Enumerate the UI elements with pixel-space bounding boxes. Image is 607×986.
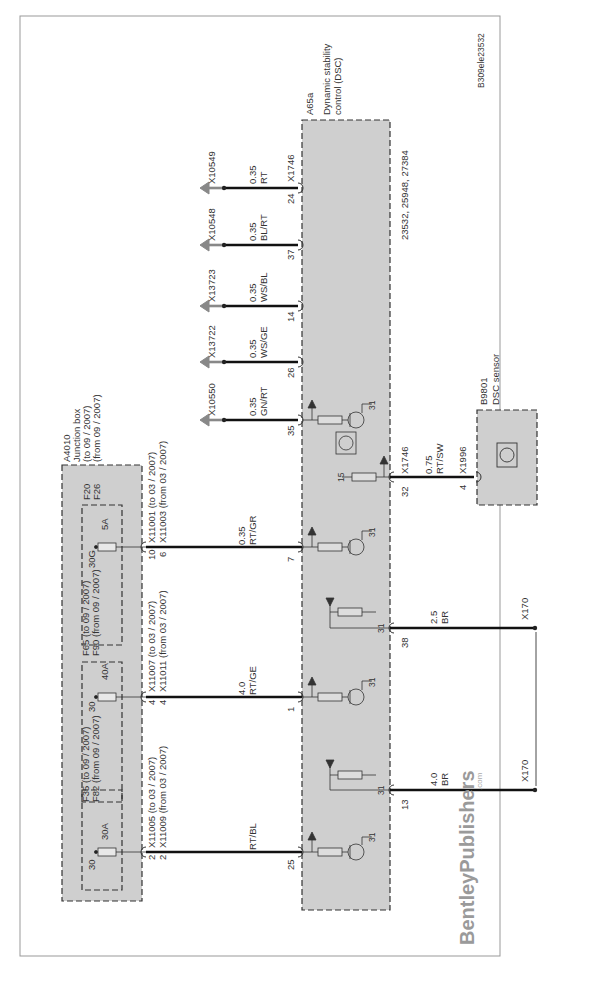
- fuse3-terminal: 30G: [86, 550, 97, 568]
- fuse2-conn1: X11007 (to 03 / 2007): [146, 601, 157, 692]
- out-gauge-ws-bl: 0.35: [247, 284, 258, 303]
- wire-color-rt-gr: RT/GR: [247, 515, 258, 545]
- wire-gauge-br-13: 4.0: [428, 773, 439, 786]
- out-gauge-gn-rt: 0.35: [247, 398, 258, 417]
- ground-31: 31: [376, 623, 386, 633]
- fuse1-pin1: 2: [146, 855, 157, 860]
- fuse3-rating: 5A: [99, 518, 110, 530]
- fuse1-conn2: X11009 (from 03 / 2007): [157, 746, 168, 848]
- pin-7: 7: [285, 557, 296, 562]
- terminal-15: 15: [336, 472, 346, 482]
- ground-31: 31: [367, 527, 377, 537]
- out-x10550: X10550: [206, 383, 217, 416]
- sensor-connector-x1996: X1996: [457, 447, 468, 474]
- fuse2-terminal: 30: [86, 701, 97, 712]
- dsc-connector-x1746: X1746: [285, 155, 296, 182]
- fuse3-label2: F26: [91, 484, 102, 500]
- ground-x170-a: X170: [519, 760, 530, 782]
- wire-label-rt-bl: RT/BL: [247, 823, 258, 850]
- out-x13722: X13722: [206, 325, 217, 358]
- dsc-name-line2: control (DSC): [332, 57, 343, 115]
- brand-suffix: .com: [475, 772, 484, 790]
- diagram-id: B309ele23532: [476, 33, 486, 88]
- pin-35: 35: [285, 425, 296, 436]
- fuse2-rating: 40A: [99, 662, 110, 680]
- wire-color-br-13: BR: [439, 773, 450, 786]
- pin-13: 13: [399, 799, 410, 810]
- wire-gauge-br-38: 2.5: [428, 611, 439, 624]
- fuse2-conn2: X11011 (from 03 / 2007): [157, 590, 168, 692]
- fuse3-pin1: 10: [146, 549, 157, 560]
- wire-color-rt-ge: RT/GE: [247, 666, 258, 695]
- dsc-name-line1: Dynamic stability: [321, 43, 332, 115]
- sensor-pin-4: 4: [457, 485, 468, 490]
- dsc-refs: 23532, 25948, 27384: [399, 150, 410, 240]
- fuse1-terminal: 30: [86, 859, 97, 870]
- pin-14: 14: [285, 311, 296, 322]
- pin-1: 1: [285, 707, 296, 712]
- out-color-gn-rt: GN/RT: [258, 386, 269, 416]
- out-color-rt: RT: [258, 171, 269, 184]
- pin-25: 25: [285, 859, 296, 870]
- out-gauge-rt: 0.35: [247, 166, 258, 185]
- wire-gauge-rt-ge: 4.0: [236, 682, 247, 695]
- pin-38: 38: [399, 637, 410, 648]
- dsc-sensor-b9801: [477, 410, 537, 505]
- junction-box-variant2: (from 09 / 2007): [91, 394, 102, 462]
- sensor-name: DSC sensor: [490, 354, 501, 405]
- wire-color-rt-sw: RT/SW: [434, 444, 445, 474]
- wire-gauge-rt-gr: 0.35: [236, 527, 247, 546]
- out-gauge-bl-rt: 0.35: [247, 223, 258, 242]
- fuse2-pin1: 4: [146, 700, 157, 705]
- fuse3-conn2: X11003 (from 03 / 2007): [157, 441, 168, 543]
- wire-color-br-38: BR: [439, 611, 450, 624]
- fuse3-conn1: X11001 (to 03 / 2007): [146, 452, 157, 543]
- pin-32: 32: [399, 486, 410, 497]
- ground-31: 31: [367, 677, 377, 687]
- out-gauge-ws-ge: 0.35: [247, 340, 258, 359]
- out-x10548: X10548: [206, 208, 217, 241]
- out-color-bl-rt: BL/RT: [258, 214, 269, 241]
- fuse3-pin2: 6: [157, 552, 168, 557]
- wiring-diagram: A4010 Junction box (to 09 / 2007) (from …: [0, 0, 607, 986]
- out-x10549: X10549: [206, 151, 217, 184]
- out-x13723: X13723: [206, 269, 217, 302]
- ground-x170-b: X170: [519, 598, 530, 620]
- sensor-id: B9801: [478, 378, 489, 405]
- pin-37: 37: [285, 249, 296, 260]
- out-color-ws-bl: WS/BL: [258, 272, 269, 302]
- fuse1-conn1: X11005 (to 03 / 2007): [146, 757, 157, 848]
- ground-31: 31: [376, 785, 386, 795]
- out-color-ws-ge: WS/GE: [258, 326, 269, 358]
- fuse1-rating: 30A: [99, 822, 110, 840]
- dsc-connector-x1746-b: X1746: [399, 447, 410, 474]
- fuse1-pin2: 2: [157, 855, 168, 860]
- fuse2-pin2: 4: [157, 700, 168, 705]
- pin-24: 24: [285, 193, 296, 204]
- brand-logo: BentleyPublishers: [456, 770, 478, 945]
- pin-26: 26: [285, 367, 296, 378]
- ground-31: 31: [367, 832, 377, 842]
- wire-gauge-rt-sw: 0.75: [423, 456, 434, 475]
- fuse2-label2: F90 (from 09 / 2007): [90, 569, 101, 656]
- dsc-id: A65a: [304, 92, 315, 115]
- fuse1-label2: F82 (from 09 / 2007): [90, 715, 101, 802]
- ground-31: 31: [367, 400, 377, 410]
